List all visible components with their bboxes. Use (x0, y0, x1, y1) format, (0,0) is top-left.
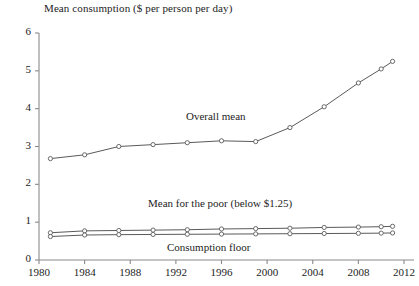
data-point-marker (254, 232, 258, 236)
data-point-marker (379, 225, 383, 229)
data-point-marker (322, 231, 326, 235)
data-point-marker (117, 233, 121, 237)
x-axis-tick-label: 1992 (156, 266, 196, 278)
x-axis-tick-label: 1996 (202, 266, 242, 278)
data-point-marker (288, 226, 292, 230)
data-point-marker (288, 232, 292, 236)
x-axis-tick-label: 2000 (247, 266, 287, 278)
data-point-marker (356, 225, 360, 229)
y-axis-tick-label: 3 (11, 139, 31, 151)
x-axis-tick-label: 2008 (338, 266, 378, 278)
series-annotation-0: Overall mean (186, 110, 246, 122)
data-point-marker (185, 228, 189, 232)
data-point-marker (83, 229, 87, 233)
data-point-marker (322, 105, 326, 109)
data-point-marker (151, 228, 155, 232)
x-axis-tick-label: 2012 (384, 266, 419, 278)
data-point-marker (185, 232, 189, 236)
chart-container: Mean consumption ($ per person per day) … (0, 0, 419, 286)
data-point-marker (390, 231, 394, 235)
data-point-marker (322, 225, 326, 229)
data-point-marker (390, 59, 394, 63)
data-point-marker (117, 144, 121, 148)
x-axis-tick-label: 1988 (110, 266, 150, 278)
data-point-marker (219, 227, 223, 231)
data-point-marker (117, 228, 121, 232)
data-point-marker (379, 231, 383, 235)
series-annotation-1: Mean for the poor (below $1.25) (148, 197, 292, 209)
data-point-marker (219, 139, 223, 143)
data-point-marker (356, 81, 360, 85)
series-annotation-2: Consumption floor (167, 241, 250, 253)
y-axis-tick-label: 6 (11, 25, 31, 37)
data-point-marker (48, 234, 52, 238)
y-axis-tick-label: 0 (11, 252, 31, 264)
data-point-marker (185, 141, 189, 145)
y-axis-tick-label: 5 (11, 63, 31, 75)
data-point-marker (83, 153, 87, 157)
data-point-marker (219, 232, 223, 236)
data-point-marker (390, 224, 394, 228)
data-point-marker (288, 125, 292, 129)
data-point-marker (151, 232, 155, 236)
data-point-marker (356, 231, 360, 235)
data-point-marker (379, 67, 383, 71)
y-axis-tick-label: 4 (11, 101, 31, 113)
y-axis-tick-label: 2 (11, 176, 31, 188)
y-axis-tick-label: 1 (11, 214, 31, 226)
x-axis-tick-label: 2004 (293, 266, 333, 278)
data-point-marker (151, 143, 155, 147)
data-point-marker (254, 139, 258, 143)
data-point-marker (83, 233, 87, 237)
x-axis-tick-label: 1980 (19, 266, 59, 278)
x-axis-tick-label: 1984 (65, 266, 105, 278)
data-point-marker (254, 227, 258, 231)
data-point-marker (48, 157, 52, 161)
